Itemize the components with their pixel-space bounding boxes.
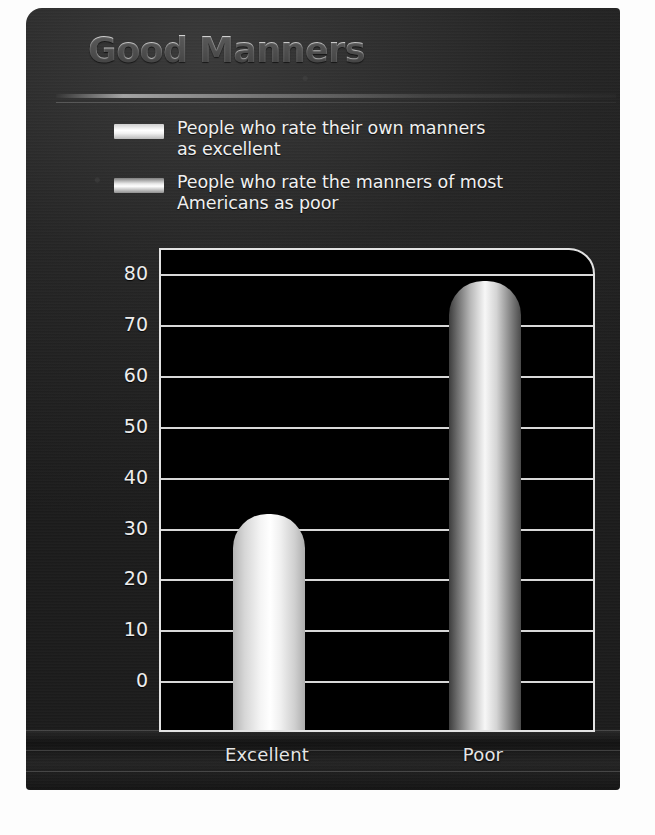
- gridline: [161, 630, 593, 632]
- x-axis: ExcellentPoor: [159, 736, 595, 770]
- gridline: [161, 478, 593, 480]
- y-axis-tick-label: 10: [124, 618, 148, 640]
- poster-root: Good Manners People who rate their own m…: [0, 0, 655, 835]
- legend-label-line1: People who rate their own manners: [177, 118, 485, 138]
- gridline: [161, 579, 593, 581]
- legend-label-line1: People who rate the manners of most: [177, 172, 503, 192]
- y-axis-tick-label: 80: [124, 262, 148, 284]
- gridline: [161, 376, 593, 378]
- chart-panel: Good Manners People who rate their own m…: [26, 8, 620, 790]
- y-axis-tick-label: 20: [124, 567, 148, 589]
- gridline: [161, 325, 593, 327]
- y-axis-tick-label: 30: [124, 517, 148, 539]
- legend-swatch-icon: [114, 178, 164, 193]
- legend-item-label: People who rate their own manners as exc…: [177, 118, 485, 160]
- y-axis-tick-label: 70: [124, 313, 148, 335]
- title-divider-secondary: [56, 102, 616, 103]
- title-divider: [56, 94, 616, 98]
- y-axis-tick-label: 40: [124, 466, 148, 488]
- gridline: [161, 529, 593, 531]
- y-axis-tick-label: 0: [136, 669, 148, 691]
- x-axis-tick-label: Excellent: [225, 744, 309, 765]
- chart-plot-wrapper: 01020304050607080 ExcellentPoor: [86, 236, 606, 736]
- bar-poor: [449, 281, 521, 731]
- legend-label-line2: as excellent: [177, 139, 281, 159]
- legend-label-line2: Americans as poor: [177, 193, 338, 213]
- gridline: [161, 681, 593, 683]
- gridline: [161, 427, 593, 429]
- chart-legend: People who rate their own manners as exc…: [114, 118, 584, 226]
- legend-item-label: People who rate the manners of most Amer…: [177, 172, 503, 214]
- x-axis-tick-label: Poor: [463, 744, 503, 765]
- y-axis-tick-label: 50: [124, 415, 148, 437]
- legend-swatch-icon: [114, 124, 164, 139]
- bar-excellent: [233, 514, 305, 730]
- y-axis-tick-label: 60: [124, 364, 148, 386]
- legend-item: People who rate their own manners as exc…: [114, 118, 584, 160]
- page-title: Good Manners: [88, 30, 365, 70]
- legend-item: People who rate the manners of most Amer…: [114, 172, 584, 214]
- plot-area: [159, 248, 595, 732]
- y-axis: 01020304050607080: [86, 236, 154, 726]
- gridline: [161, 274, 593, 276]
